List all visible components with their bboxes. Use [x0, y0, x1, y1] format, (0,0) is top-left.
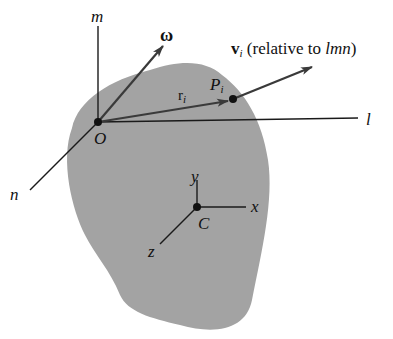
v-i-vector	[233, 67, 312, 99]
m-axis-label: m	[91, 8, 103, 25]
center-c-point	[193, 203, 201, 211]
p-subscript: i	[220, 83, 223, 95]
n-axis-label: n	[10, 186, 19, 203]
z-axis-label: z	[148, 243, 155, 260]
y-axis-label: y	[191, 168, 199, 185]
origin-o-point	[94, 118, 102, 126]
v-symbol: v	[231, 39, 240, 58]
v-close-paren: )	[351, 39, 357, 58]
v-frame-text: lmn	[325, 39, 351, 58]
l-axis-label: l	[366, 111, 371, 128]
r-i-label: ri	[178, 88, 186, 105]
r-subscript: i	[183, 93, 186, 105]
point-p-i	[229, 95, 237, 103]
omega-label: ω	[160, 26, 173, 44]
center-c-label: C	[198, 215, 209, 232]
p-i-label: Pi	[210, 76, 223, 95]
p-symbol: P	[210, 75, 220, 94]
v-i-label: vi (relative to lmn)	[231, 40, 356, 59]
x-axis-label: x	[251, 198, 259, 215]
v-relative-text: (relative to	[243, 39, 326, 58]
origin-o-label: O	[94, 130, 106, 147]
